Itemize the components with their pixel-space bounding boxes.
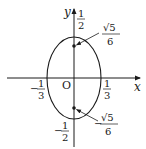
- tick-x-pos-num: 1: [104, 78, 110, 89]
- tick-y-neg: − 1 2: [54, 120, 69, 143]
- tick-x-neg-den: 3: [38, 90, 44, 101]
- origin-label: O: [62, 79, 71, 92]
- y-axis-label: y: [63, 5, 71, 19]
- tick-y-pos: 1 2: [77, 8, 85, 31]
- focus-label-lower: − √5 6: [94, 112, 118, 137]
- tick-y-neg-den: 2: [62, 132, 68, 143]
- ellipse-diagram: y x O 1 2 − 1 2 − 1 3 1 3 √5 6 − √5 6: [0, 0, 146, 149]
- focus-lower-num: √5: [101, 112, 114, 123]
- tick-y-pos-den: 2: [78, 20, 84, 31]
- tick-x-neg-num: 1: [38, 78, 44, 89]
- focus-lower-den: 6: [105, 126, 111, 137]
- tick-x-neg: − 1 3: [30, 78, 45, 101]
- tick-y-pos-num: 1: [78, 8, 84, 19]
- x-axis-label: x: [134, 80, 141, 94]
- focus-label-upper: √5 6: [102, 22, 120, 47]
- tick-x-pos-den: 3: [104, 90, 110, 101]
- focus-point-upper: [72, 44, 76, 48]
- focus-upper-den: 6: [107, 36, 113, 47]
- focus-point-lower: [72, 106, 76, 110]
- tick-x-pos: 1 3: [103, 78, 111, 101]
- tick-y-neg-num: 1: [62, 120, 68, 131]
- focus-upper-num: √5: [103, 22, 116, 33]
